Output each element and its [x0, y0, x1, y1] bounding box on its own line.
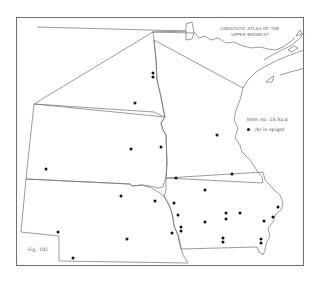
data-point-dot-icon [154, 200, 157, 203]
data-point-dot-icon [204, 221, 207, 224]
linguistic-atlas-map: LINGUISTIC ATLAS OF THE UPPER MIDWEST It… [0, 0, 321, 282]
data-points-layer [0, 0, 321, 282]
data-point-dot-icon [231, 173, 234, 176]
data-point-dot-icon [204, 189, 207, 192]
data-point-dot-icon [72, 257, 75, 260]
data-point-dot-icon [180, 230, 183, 233]
data-point-dot-icon [216, 134, 219, 137]
data-point-dot-icon [160, 146, 163, 149]
data-point-dot-icon [152, 76, 155, 79]
data-point-dot-icon [225, 212, 228, 215]
data-point-dot-icon [126, 238, 129, 241]
data-point-dot-icon [175, 177, 178, 180]
data-point-dot-icon [45, 168, 48, 171]
data-point-dot-icon [120, 195, 123, 198]
data-point-dot-icon [225, 218, 228, 221]
data-point-dot-icon [152, 72, 155, 75]
data-point-dot-icon [260, 242, 263, 245]
data-point-dot-icon [260, 238, 263, 241]
data-point-dot-icon [173, 202, 176, 205]
data-point-dot-icon [177, 214, 180, 217]
data-point-dot-icon [222, 237, 225, 240]
data-point-dot-icon [171, 232, 174, 235]
data-point-dot-icon [239, 212, 242, 215]
data-point-dot-icon [180, 226, 183, 229]
data-point-dot-icon [134, 102, 137, 105]
data-point-dot-icon [263, 220, 266, 223]
data-point-dot-icon [130, 148, 133, 151]
data-point-dot-icon [272, 216, 275, 219]
data-point-dot-icon [222, 241, 225, 244]
data-point-dot-icon [277, 206, 280, 209]
data-point-dot-icon [57, 231, 60, 234]
